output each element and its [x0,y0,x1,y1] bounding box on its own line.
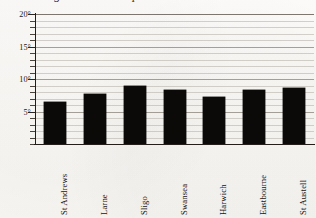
bar-swansea[interactable] [164,90,186,144]
bar-st-austell[interactable] [283,88,305,144]
x-axis-label-larne: Larne [99,194,109,215]
chart-title: Average summer temperature [24,0,177,1]
x-axis-label-harwich: Harwich [218,184,228,215]
x-axis-label-sligo: Sligo [139,196,149,215]
bar-larne[interactable] [84,94,106,144]
y-axis-labels: 20°15°10°5° [0,0,31,218]
bars-group [35,14,314,144]
x-axis-labels: St AndrewsLarneSligoSwanseaHarwichEastbo… [35,147,314,218]
x-axis-label-swansea: Swansea [179,184,189,215]
bar-sligo[interactable] [124,86,146,144]
chart-title-clipped: Average summer temperature [0,0,316,9]
bar-chart: Average summer temperature 20°15°10°5° S… [0,0,316,218]
y-axis-line [35,13,36,145]
x-axis-label-eastbourne: Eastbourne [258,175,268,215]
x-axis-line [34,144,315,145]
x-axis-label-st-andrews: St Andrews [59,174,69,215]
x-axis-label-st-austell: St Austell [298,180,308,215]
bar-harwich[interactable] [203,97,225,144]
bar-eastbourne[interactable] [243,90,265,144]
bar-st-andrews[interactable] [44,102,66,144]
